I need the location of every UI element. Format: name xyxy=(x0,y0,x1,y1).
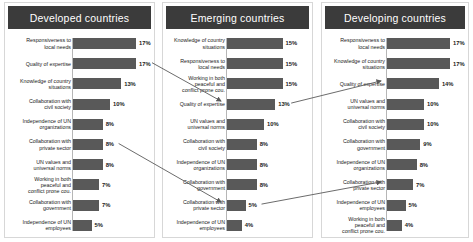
bar xyxy=(227,38,283,49)
category-label: Independence of UN organizations xyxy=(324,159,385,171)
bar-value-label: 8% xyxy=(106,141,114,147)
bar-value-label: 8% xyxy=(260,162,268,168)
category-label: Working in both peaceful and conflict pr… xyxy=(165,75,225,94)
bar xyxy=(227,58,283,69)
bar xyxy=(227,139,257,150)
bar-value-label: 17% xyxy=(139,61,151,67)
bar xyxy=(73,99,110,110)
bar xyxy=(73,58,136,69)
bar-value-label: 14% xyxy=(442,81,454,87)
bar xyxy=(73,159,103,170)
bar-value-label: 8% xyxy=(420,162,428,168)
bar xyxy=(73,119,103,130)
bar xyxy=(387,200,406,211)
bar-value-label: 10% xyxy=(267,121,279,127)
bar xyxy=(227,99,275,110)
bar-value-label: 7% xyxy=(416,182,424,188)
category-label: Quality of expertise xyxy=(165,101,225,107)
category-label: Responsiveness to local needs xyxy=(7,37,71,49)
category-label: Independence of UN employees xyxy=(324,199,385,211)
panel-developing-countries: Developing countries Responsiveness to l… xyxy=(321,2,469,238)
category-label: Collaboration with government xyxy=(165,179,225,191)
category-label: Independence of UN organizations xyxy=(7,118,71,130)
bar-value-label: 8% xyxy=(260,141,268,147)
plot-area-developing: Responsiveness to local needs17%Knowledg… xyxy=(322,33,468,233)
category-label: Collaboration with government xyxy=(7,199,71,211)
category-label: Quality of expertise xyxy=(324,81,385,87)
category-label: Collaboration with civil society xyxy=(165,138,225,150)
bar-value-label: 15% xyxy=(286,40,298,46)
bar xyxy=(387,78,439,89)
panel-title-developed: Developed countries xyxy=(8,6,151,29)
bar xyxy=(227,200,246,211)
category-label: Working in both peaceful and conflict pr… xyxy=(324,216,385,235)
category-label: Knowledge of country situations xyxy=(165,37,225,49)
bar-value-label: 13% xyxy=(278,101,290,107)
category-label: Working in both peaceful and conflict pr… xyxy=(7,176,71,195)
category-label: Collaboration with private sector xyxy=(324,179,385,191)
bar-value-label: 10% xyxy=(427,121,439,127)
category-label: Collaboration with civil society xyxy=(324,118,385,130)
bar-value-label: 10% xyxy=(113,101,125,107)
bar-value-label: 13% xyxy=(124,81,136,87)
category-label: Responsiveness to local needs xyxy=(324,37,385,49)
bar xyxy=(73,220,92,231)
panel-title-developing: Developing countries xyxy=(325,6,465,29)
bar xyxy=(73,78,121,89)
bar-value-label: 5% xyxy=(249,202,257,208)
bar xyxy=(73,38,136,49)
bar-value-label: 15% xyxy=(286,81,298,87)
bar-value-label: 15% xyxy=(286,61,298,67)
bar xyxy=(387,159,417,170)
bar-value-label: 7% xyxy=(102,202,110,208)
category-label: Knowledge of country situations xyxy=(324,58,385,70)
panel-emerging-countries: Emerging countries Knowledge of country … xyxy=(162,2,313,238)
category-label: Collaboration with government xyxy=(324,138,385,150)
bar xyxy=(227,119,264,130)
bar-value-label: 10% xyxy=(427,101,439,107)
bar-value-label: 17% xyxy=(453,61,465,67)
bar xyxy=(387,220,402,231)
category-label: Independence of UN employees xyxy=(165,219,225,231)
bar xyxy=(387,58,450,69)
panel-title-emerging: Emerging countries xyxy=(166,6,309,29)
bar xyxy=(227,78,283,89)
category-label: UN values and universal norms xyxy=(165,118,225,130)
category-label: Collaboration with private sector xyxy=(7,138,71,150)
category-label: Collaboration with private sector xyxy=(165,199,225,211)
bar xyxy=(387,179,413,190)
bar xyxy=(73,179,99,190)
bar xyxy=(227,179,257,190)
category-label: Knowledge of country situations xyxy=(7,78,71,90)
bar xyxy=(73,200,99,211)
bar-value-label: 17% xyxy=(453,40,465,46)
category-label: Collaboration with civil society xyxy=(7,98,71,110)
category-label: Independence of UN employees xyxy=(7,219,71,231)
bar-value-label: 4% xyxy=(405,222,413,228)
category-label: Independence of UN organizations xyxy=(165,159,225,171)
bar xyxy=(73,139,103,150)
bar-value-label: 7% xyxy=(102,182,110,188)
bar xyxy=(227,220,242,231)
bar-value-label: 9% xyxy=(423,141,431,147)
bar-value-label: 17% xyxy=(139,40,151,46)
category-label: Responsiveness to local needs xyxy=(165,58,225,70)
category-label: UN values and universal norms xyxy=(324,98,385,110)
category-label: Quality of expertise xyxy=(7,61,71,67)
plot-area-developed: Responsiveness to local needs17%Quality … xyxy=(5,33,154,233)
bar-value-label: 5% xyxy=(409,202,417,208)
bar-value-label: 8% xyxy=(106,121,114,127)
chart-figure: Developed countries Responsiveness to lo… xyxy=(0,0,473,242)
bar-value-label: 8% xyxy=(260,182,268,188)
category-label: UN values and universal norms xyxy=(7,159,71,171)
bar xyxy=(387,139,420,150)
plot-area-emerging: Knowledge of country situations15%Respon… xyxy=(163,33,312,233)
bar xyxy=(387,119,424,130)
bar-value-label: 8% xyxy=(106,162,114,168)
panel-developed-countries: Developed countries Responsiveness to lo… xyxy=(4,2,155,238)
bar-value-label: 5% xyxy=(95,222,103,228)
bar xyxy=(387,99,424,110)
bar xyxy=(227,159,257,170)
bar-value-label: 4% xyxy=(245,222,253,228)
bar xyxy=(387,38,450,49)
